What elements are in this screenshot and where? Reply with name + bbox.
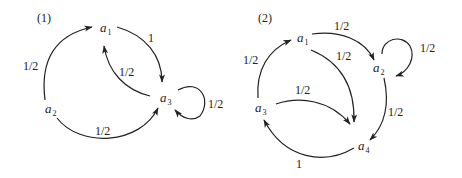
svg-text:1/2: 1/2 xyxy=(420,41,435,55)
diagram-2-title: (2) xyxy=(258,11,272,25)
svg-text:1/2: 1/2 xyxy=(95,124,110,138)
edge-a2-self-loop: 1/2 xyxy=(382,39,435,76)
svg-text:1/2: 1/2 xyxy=(388,105,403,119)
node-a1: a1 xyxy=(297,30,309,47)
svg-text:1: 1 xyxy=(296,157,302,171)
diagram-2: (2) a1 a2 a3 a4 1/2 1/2 1/2 1/2 xyxy=(243,11,435,171)
edge-a2-to-a4: 1/2 xyxy=(370,78,403,140)
edge-a3-to-a1: 1/2 xyxy=(243,40,291,98)
node-a4: a4 xyxy=(358,138,370,155)
node-a3: a3 xyxy=(255,100,267,117)
edge-a3-to-a4: 1/2 xyxy=(276,83,350,124)
node-a2: a2 xyxy=(373,60,385,77)
edge-a3-to-a1: 1/2 xyxy=(104,46,150,96)
svg-text:1/2: 1/2 xyxy=(208,97,223,111)
svg-text:1/2: 1/2 xyxy=(295,83,310,97)
svg-text:a2: a2 xyxy=(373,60,385,77)
svg-text:a2: a2 xyxy=(45,101,57,118)
svg-text:1/2: 1/2 xyxy=(243,53,258,67)
diagram-1: (1) a1 a2 a3 1/2 1 1/2 1/2 1/2 xyxy=(23,11,223,138)
svg-text:a1: a1 xyxy=(297,30,309,47)
node-a2: a2 xyxy=(45,101,57,118)
svg-text:a3: a3 xyxy=(160,90,172,107)
svg-text:1/2: 1/2 xyxy=(336,49,351,63)
svg-text:a1: a1 xyxy=(100,20,112,37)
svg-text:a3: a3 xyxy=(255,100,267,117)
node-a1: a1 xyxy=(100,20,112,37)
edge-a1-to-a4: 1/2 xyxy=(311,49,354,122)
svg-text:1/2: 1/2 xyxy=(119,65,134,79)
diagram-canvas: (1) a1 a2 a3 1/2 1 1/2 1/2 1/2 xyxy=(0,0,462,178)
svg-text:1/2: 1/2 xyxy=(334,19,349,33)
edge-a2-to-a3: 1/2 xyxy=(57,108,158,138)
svg-text:a4: a4 xyxy=(358,138,370,155)
edge-a3-self-loop: 1/2 xyxy=(175,87,223,119)
edge-a2-to-a1: 1/2 xyxy=(23,27,92,100)
diagram-1-title: (1) xyxy=(37,11,51,25)
edge-a4-to-a3: 1 xyxy=(264,120,354,171)
node-a3: a3 xyxy=(160,90,172,107)
svg-text:1: 1 xyxy=(148,31,154,45)
svg-text:1/2: 1/2 xyxy=(23,59,38,73)
